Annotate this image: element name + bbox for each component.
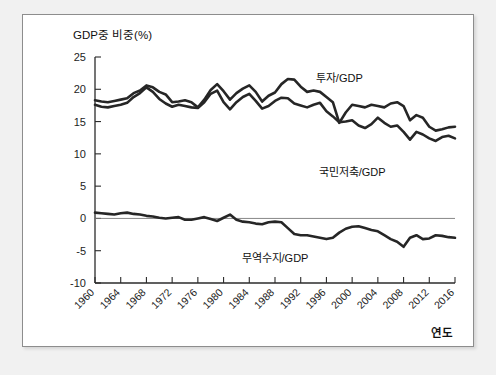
y-tick-label: 0 — [80, 212, 86, 224]
x-tick-label: 1988 — [251, 286, 276, 311]
chart-panel: 2520151050-5-101960196419681972197619801… — [22, 14, 474, 347]
series-annotation-2: 국민저축/GDP — [319, 166, 386, 178]
x-tick-label: 1996 — [303, 286, 328, 311]
x-tick-label: 1984 — [226, 286, 251, 311]
x-tick-label: 2016 — [431, 286, 456, 311]
y-tick-label: -5 — [76, 245, 86, 257]
series-annotation-3: 무역수지/GDP — [242, 252, 309, 264]
x-tick-label: 2000 — [329, 286, 354, 311]
x-tick-label: 2012 — [406, 286, 431, 311]
x-tick-label: 2008 — [380, 286, 405, 311]
y-tick-label: 5 — [80, 180, 86, 192]
x-tick-label: 1980 — [200, 286, 225, 311]
y-tick-label: 25 — [74, 51, 86, 63]
x-tick-label: 2004 — [354, 286, 379, 311]
x-tick-label: 1968 — [123, 286, 148, 311]
series-annotation-1: 투자/GDP — [316, 72, 363, 84]
y-tick-label: 10 — [74, 148, 86, 160]
x-tick-label: 1976 — [174, 286, 199, 311]
y-tick-label: 20 — [74, 83, 86, 95]
series-line-2 — [95, 87, 455, 141]
x-tick-label: 1972 — [149, 286, 174, 311]
y-tick-label: -10 — [70, 277, 86, 289]
x-tick-label: 1964 — [97, 286, 122, 311]
line-chart: 2520151050-5-101960196419681972197619801… — [23, 15, 473, 346]
y-tick-label: 15 — [74, 116, 86, 128]
figure-root: 2520151050-5-101960196419681972197619801… — [0, 0, 496, 375]
series-line-1 — [95, 79, 455, 131]
x-tick-label: 1960 — [71, 286, 96, 311]
y-axis-title: GDP중 비중(%) — [73, 29, 152, 41]
x-tick-label: 1992 — [277, 286, 302, 311]
x-axis-title: 연도 — [431, 326, 453, 339]
series-line-3 — [95, 213, 455, 247]
